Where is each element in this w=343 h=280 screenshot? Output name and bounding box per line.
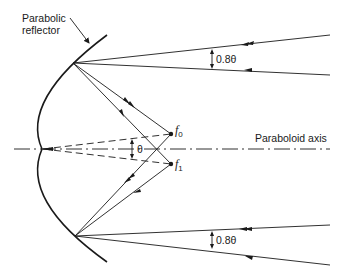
lower-incoming-ray-1 [75, 225, 330, 236]
reflector-label: Parabolic reflector [22, 12, 66, 36]
lower-incoming-ray-2 [75, 236, 330, 265]
reflector-label-line1: Parabolic [22, 12, 66, 24]
dashed-line-to-f1 [43, 149, 171, 164]
focal-point-f0 [169, 132, 173, 136]
arrowhead [239, 227, 247, 231]
reflector-label-line2: reflector [22, 24, 66, 36]
beam-angle-label-upper: 0.8θ [216, 53, 236, 65]
upper-incoming-ray-1 [73, 35, 330, 63]
upper-reflected-ray-to-f0 [73, 63, 171, 134]
theta-label: θ [137, 143, 143, 155]
arrowhead [245, 256, 253, 260]
vertex-arrowhead [43, 147, 53, 151]
upper-incoming-ray-2 [73, 63, 330, 75]
arrowhead [128, 101, 135, 108]
beam-angle-label-lower: 0.8θ [216, 234, 236, 246]
arrowhead [241, 42, 249, 46]
focal-label-f0: f0 [175, 124, 183, 138]
lower-reflected-ray-to-f1 [75, 164, 171, 236]
axis-label: Paraboloid axis [255, 132, 327, 144]
reflector-leader-line [70, 18, 89, 43]
focal-point-f1 [169, 162, 173, 166]
arrowhead [119, 109, 124, 117]
focal-label-f1: f1 [175, 158, 183, 172]
dashed-line-to-f0 [43, 134, 171, 149]
